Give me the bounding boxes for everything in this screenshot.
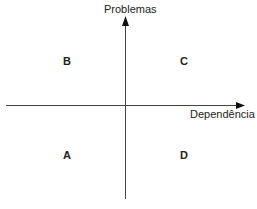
y-axis-label: Problemas — [104, 3, 157, 15]
y-axis-arrowhead — [122, 16, 129, 26]
quadrant-label-c: C — [180, 55, 188, 67]
quadrant-axes — [0, 0, 257, 209]
x-axis-label: Dependência — [190, 108, 255, 120]
quadrant-label-a: A — [63, 149, 71, 161]
quadrant-label-d: D — [180, 149, 188, 161]
quadrant-label-b: B — [63, 55, 71, 67]
